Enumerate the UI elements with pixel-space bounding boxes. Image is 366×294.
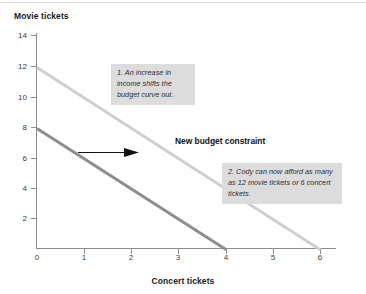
y-tick-14 — [31, 35, 36, 36]
x-tick-label-0: 0 — [27, 253, 47, 262]
x-tick-label-1: 1 — [74, 253, 94, 262]
y-tick-12 — [31, 66, 36, 67]
y-tick-8 — [31, 127, 36, 128]
x-tick-label-6: 6 — [310, 253, 330, 262]
x-tick-label-3: 3 — [168, 253, 188, 262]
x-tick-label-4: 4 — [216, 253, 236, 262]
x-axis-title: Concert tickets — [0, 276, 366, 286]
y-tick-label-2: 2 — [5, 214, 27, 223]
y-tick-6 — [31, 158, 36, 159]
y-tick-label-14: 14 — [5, 31, 27, 40]
x-tick-label-5: 5 — [263, 253, 283, 262]
y-tick-label-12: 12 — [5, 62, 27, 71]
callout-income-shift: 1. An increase in income shifts the budg… — [111, 64, 195, 105]
y-tick-10 — [31, 97, 36, 98]
budget-constraint-figure: Movie tickets 14 12 10 8 6 4 2 0 1 2 3 4… — [0, 0, 366, 294]
y-tick-label-8: 8 — [5, 123, 27, 132]
x-axis-line — [36, 248, 336, 249]
new-budget-constraint-label: New budget constraint — [175, 136, 265, 146]
shift-arrow-icon — [78, 147, 140, 158]
x-tick-label-2: 2 — [121, 253, 141, 262]
plot-area: 14 12 10 8 6 4 2 0 1 2 3 4 5 6 New budge… — [0, 0, 366, 294]
y-tick-label-4: 4 — [5, 184, 27, 193]
callout-affordability: 2. Cody can now afford as many as 12 mov… — [222, 163, 342, 204]
y-tick-label-10: 10 — [5, 93, 27, 102]
y-tick-4 — [31, 188, 36, 189]
y-tick-label-6: 6 — [5, 154, 27, 163]
y-tick-2 — [31, 218, 36, 219]
